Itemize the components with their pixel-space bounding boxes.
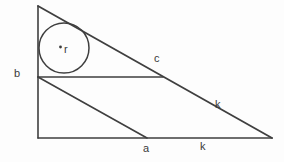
label-a: a xyxy=(143,143,149,154)
geometry-figure: b r c k k a xyxy=(0,0,284,162)
label-c: c xyxy=(154,53,160,64)
label-k-base: k xyxy=(200,141,206,152)
label-r: r xyxy=(64,44,68,55)
circle-center-dot xyxy=(59,46,62,49)
label-b: b xyxy=(14,68,20,79)
label-k-hypotenuse: k xyxy=(215,99,221,110)
segment-diagonal-b-to-a xyxy=(38,77,147,138)
geometry-canvas xyxy=(0,0,284,162)
